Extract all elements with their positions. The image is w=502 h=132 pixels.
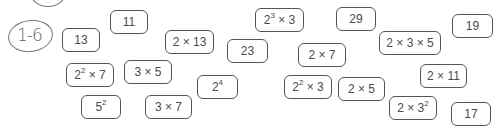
number-card-c2e2x7[interactable]: 22 × 7 <box>66 63 114 87</box>
number-card-c23[interactable]: 23 <box>227 39 268 63</box>
number-card-c13[interactable]: 13 <box>62 28 100 52</box>
handwritten-label: 1-6 <box>17 25 42 45</box>
number-card-c2e4[interactable]: 24 <box>197 75 238 99</box>
number-card-c2x5[interactable]: 2 × 5 <box>338 77 385 101</box>
number-card-c3x5[interactable]: 3 × 5 <box>124 60 172 84</box>
card-base: 2 × 11 <box>427 69 460 83</box>
card-base: 5 <box>95 100 102 114</box>
card-rest: × 3 <box>275 13 295 27</box>
card-base: 11 <box>123 15 135 29</box>
number-card-c2x3x5[interactable]: 2 × 3 × 5 <box>379 31 441 55</box>
card-base: 2 × 5 <box>348 82 375 96</box>
number-card-c19[interactable]: 19 <box>452 14 493 38</box>
card-base: 23 <box>241 44 254 58</box>
number-card-c2x13[interactable]: 2 × 13 <box>165 30 214 54</box>
card-exponent: 2 <box>81 66 85 75</box>
card-base: 2 × 7 <box>308 48 335 62</box>
number-card-c2e2x3[interactable]: 22 × 3 <box>284 75 332 99</box>
number-card-c17[interactable]: 17 <box>451 102 491 126</box>
card-exponent: 2 <box>299 78 303 87</box>
card-exponent: 4 <box>219 78 223 87</box>
number-card-c2e3x3[interactable]: 23 × 3 <box>255 8 304 32</box>
card-base: 2 <box>212 80 219 94</box>
card-base: 2 <box>264 13 271 27</box>
partial-circle-mark <box>30 0 66 7</box>
card-base: 3 × 7 <box>155 100 182 114</box>
card-base: 3 × 5 <box>134 65 161 79</box>
card-exponent: 2 <box>102 98 106 107</box>
number-card-c3x7[interactable]: 3 × 7 <box>145 95 192 119</box>
card-rest: × 7 <box>85 68 105 82</box>
number-card-c29[interactable]: 29 <box>336 7 376 31</box>
number-card-c2x3e2[interactable]: 2 × 32 <box>389 96 437 120</box>
number-card-c5e2[interactable]: 52 <box>81 95 121 119</box>
card-base: 2 × 3 × 5 <box>386 36 433 50</box>
card-exponent: 2 <box>424 99 428 108</box>
card-base: 13 <box>74 33 87 47</box>
card-exponent: 3 <box>270 11 274 20</box>
card-base: 2 × 3 <box>397 101 424 115</box>
card-base: 2 × 13 <box>173 35 207 49</box>
card-base: 2 <box>292 80 299 94</box>
number-cards-canvas: 1-6 13112 × 1323 × 323292 × 72 × 3 × 519… <box>0 0 502 132</box>
card-base: 19 <box>466 19 479 33</box>
number-card-c11[interactable]: 11 <box>110 10 148 34</box>
card-base: 2 <box>74 68 81 82</box>
card-rest: × 3 <box>303 80 323 94</box>
number-card-c2x7[interactable]: 2 × 7 <box>298 43 346 67</box>
number-card-c2x11[interactable]: 2 × 11 <box>420 64 467 88</box>
card-base: 17 <box>464 107 477 121</box>
card-base: 29 <box>349 12 362 26</box>
